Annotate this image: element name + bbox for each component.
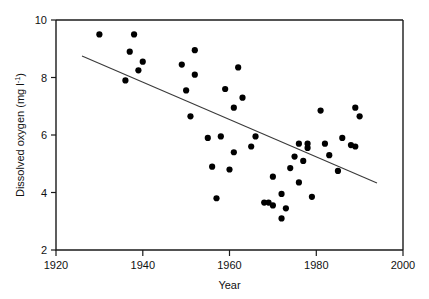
scatter-plot-figure: 10 8 6 4 2 1920 1940 1960 1980 2000 Year… — [0, 0, 429, 299]
y-axis-title: Dissolved oxygen (mg l-1) — [13, 73, 26, 197]
y-tick-label-2: 2 — [41, 244, 47, 256]
data-point — [283, 205, 289, 211]
plot-frame — [56, 20, 403, 250]
y-axis-tick-labels: 10 8 6 4 2 — [35, 14, 47, 256]
data-point — [322, 141, 328, 147]
data-point — [300, 158, 306, 164]
data-point — [252, 133, 258, 139]
y-axis-title-close: ) — [14, 73, 26, 77]
data-point — [357, 113, 363, 119]
y-tick-label-4: 4 — [41, 187, 47, 199]
data-point — [239, 95, 245, 101]
data-point — [222, 86, 228, 92]
y-tick-label-8: 8 — [41, 72, 47, 84]
data-point — [213, 195, 219, 201]
data-point — [317, 107, 323, 113]
data-point — [209, 164, 215, 170]
x-axis-title: Year — [218, 279, 241, 291]
data-point — [183, 87, 189, 93]
y-axis-title-main: Dissolved oxygen (mg l — [14, 83, 26, 197]
x-tick-label-1960: 1960 — [217, 259, 241, 271]
data-point — [248, 143, 254, 149]
data-point — [127, 49, 133, 55]
x-tick-label-1980: 1980 — [304, 259, 328, 271]
x-tick-label-1920: 1920 — [44, 259, 68, 271]
data-point — [270, 202, 276, 208]
x-axis-ticks — [56, 250, 403, 256]
data-point — [335, 168, 341, 174]
data-point — [96, 31, 102, 37]
data-point — [296, 179, 302, 185]
chart-canvas: 10 8 6 4 2 1920 1940 1960 1980 2000 Year… — [0, 0, 429, 299]
axis-lines — [56, 20, 403, 250]
x-axis-tick-labels: 1920 1940 1960 1980 2000 — [44, 259, 415, 271]
data-point — [287, 165, 293, 171]
data-point — [304, 141, 310, 147]
x-tick-label-1940: 1940 — [131, 259, 155, 271]
data-point — [192, 47, 198, 53]
data-point — [309, 194, 315, 200]
data-point — [291, 153, 297, 159]
data-point — [131, 31, 137, 37]
data-point — [326, 152, 332, 158]
data-point — [352, 105, 358, 111]
data-point — [231, 149, 237, 155]
data-point — [140, 59, 146, 65]
regression-trendline — [82, 56, 377, 183]
data-points-layer — [96, 31, 362, 221]
data-point — [187, 113, 193, 119]
data-point — [205, 135, 211, 141]
data-point — [296, 141, 302, 147]
data-point — [235, 64, 241, 70]
data-point — [352, 143, 358, 149]
data-point — [226, 166, 232, 172]
data-point — [270, 174, 276, 180]
y-axis-title-superscript: -1 — [13, 77, 22, 84]
data-point — [218, 133, 224, 139]
data-point — [122, 77, 128, 83]
y-axis-ticks — [51, 20, 56, 250]
data-point — [278, 215, 284, 221]
y-tick-label-6: 6 — [41, 129, 47, 141]
y-tick-label-10: 10 — [35, 14, 47, 26]
x-tick-label-2000: 2000 — [391, 259, 415, 271]
data-point — [339, 135, 345, 141]
data-point — [135, 67, 141, 73]
data-point — [231, 105, 237, 111]
data-point — [278, 191, 284, 197]
data-point — [192, 72, 198, 78]
data-point — [179, 61, 185, 67]
